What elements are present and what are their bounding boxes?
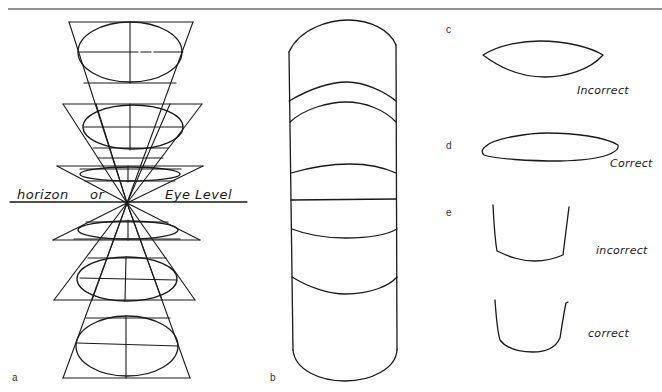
lower-ellipse-1: [53, 220, 200, 240]
band-arc-3: [291, 164, 396, 173]
band-arc-1: [289, 82, 396, 101]
lower-ellipse-2: [54, 257, 195, 301]
cylinder-left-edge: [289, 52, 293, 350]
band-arc-5: [292, 229, 397, 238]
cylinder-bottom-arc: [293, 350, 397, 381]
panel-b: b: [270, 20, 397, 383]
cup-base-correct: [495, 300, 568, 352]
panel-e: e incorrect correct: [446, 205, 648, 352]
axis: [125, 257, 126, 301]
panel-c: c Incorrect: [446, 24, 629, 97]
horizon-label-word2: or: [90, 187, 105, 202]
horizon-label-word1: horizon: [17, 187, 69, 202]
rounded-ellipse-correct: [482, 133, 618, 161]
upper-ellipse-3: [57, 166, 203, 182]
band-line-horizon: [291, 199, 396, 200]
verdict-e-incorrect: incorrect: [596, 244, 648, 257]
ray: [127, 104, 170, 203]
cylinder-top-arc: [289, 20, 396, 52]
band-arc-2: [290, 102, 396, 122]
panel-d: d Correct: [446, 133, 653, 170]
panel-a: horizon or Eye Level: [10, 22, 247, 383]
cup-base-incorrect: [493, 205, 569, 261]
ray: [127, 203, 195, 300]
verdict-c-incorrect: Incorrect: [577, 84, 629, 97]
panel-label-e: e: [446, 207, 452, 218]
pointed-ellipse-incorrect: [483, 41, 603, 77]
panel-label-c: c: [446, 24, 451, 35]
trapezoid-edge: [77, 343, 178, 346]
verdict-e-correct: correct: [588, 327, 629, 340]
band-arc-6: [292, 277, 397, 294]
panel-label-b: b: [270, 372, 276, 383]
panel-label-a: a: [12, 372, 18, 383]
panel-label-d: d: [446, 140, 452, 151]
ray: [54, 203, 127, 300]
trapezoid-edge: [80, 278, 177, 280]
cylinder-right-edge: [396, 45, 397, 350]
horizon-label-word3: Eye Level: [165, 187, 232, 202]
perspective-ellipse-figure: horizon or Eye Level: [0, 0, 662, 392]
verdict-d-correct: Correct: [610, 157, 653, 170]
